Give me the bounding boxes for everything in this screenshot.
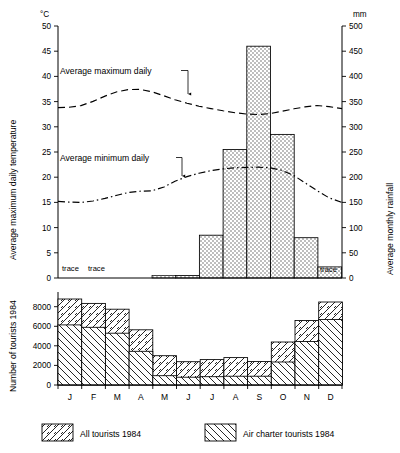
month-label-jan: J: [68, 392, 72, 402]
trace-label-left-1: trace: [62, 264, 79, 273]
trace-label-left-2: trace: [88, 264, 105, 273]
temp-tick-40: 40: [42, 72, 52, 81]
air-charter-bar-jul: [200, 377, 224, 385]
month-label-mar: M: [114, 392, 121, 402]
temp-tick-25: 25: [42, 148, 52, 157]
month-label-feb: F: [91, 392, 96, 402]
tourists-tick-4000: 4000: [33, 342, 52, 351]
rain-tick-500: 500: [349, 22, 363, 31]
bottom-axis-title: Number of tourists 1984: [8, 300, 18, 392]
air-charter-bar-feb: [82, 327, 106, 385]
rain-tick-150: 150: [349, 198, 363, 207]
month-label-may: M: [161, 392, 168, 402]
month-label-oct: O: [280, 392, 287, 402]
month-labels: J F M A M J J A S O N D: [68, 392, 334, 402]
avg-min-daily-curve: [58, 167, 342, 202]
rain-tick-50: 50: [349, 249, 359, 258]
rain-tick-250: 250: [349, 148, 363, 157]
rain-bar-jul: [199, 235, 223, 278]
rainfall-axis: 500 450 400 350 300 250 200 150 100 50 0…: [342, 22, 395, 283]
tourists-axis: 8000 6000 4000 2000 0 Number of tourists…: [8, 292, 58, 392]
annotation-avg-max-label: Average maximum daily: [60, 66, 152, 76]
air-charter-bar-apr: [129, 351, 153, 385]
left-unit-label: °C: [40, 10, 49, 19]
temp-tick-50: 50: [42, 22, 52, 31]
annotation-avg-min: Average minimum daily: [60, 153, 182, 176]
climate-tourism-figure: °C mm 50 45 40 35 30 25: [0, 0, 400, 453]
rain-tick-350: 350: [349, 98, 363, 107]
legend-label-all-tourists: All tourists 1984: [80, 429, 141, 439]
rain-bar-oct: [271, 134, 295, 278]
temp-tick-30: 30: [42, 123, 52, 132]
trace-label-right: trace: [320, 265, 337, 274]
rain-bar-nov: [294, 238, 318, 278]
month-label-apr: A: [138, 392, 144, 402]
temp-tick-35: 35: [42, 98, 52, 107]
left-axis-title: Average maximum daily temperature: [8, 120, 18, 260]
air-charter-bar-aug: [224, 376, 248, 385]
right-unit-label: mm: [353, 10, 367, 19]
air-charter-bar-jan: [58, 325, 82, 385]
air-charter-bar-nov: [295, 342, 319, 386]
rain-bar-aug: [223, 150, 247, 279]
rain-tick-400: 400: [349, 72, 363, 81]
month-ticks: [58, 385, 342, 389]
rain-tick-450: 450: [349, 47, 363, 56]
rain-bar-sep: [247, 46, 271, 278]
top-panel: °C mm 50 45 40 35 30 25: [8, 10, 395, 283]
rain-tick-100: 100: [349, 224, 363, 233]
air-charter-bar-oct: [271, 362, 295, 385]
air-charter-bar-jun: [177, 377, 201, 385]
air-charter-bar-dec: [319, 320, 343, 386]
air-charter-bar-sep: [248, 376, 272, 385]
temp-tick-20: 20: [42, 173, 52, 182]
legend: All tourists 1984 Air charter tourists 1…: [42, 424, 334, 441]
rainfall-bars: [152, 46, 342, 278]
rain-tick-200: 200: [349, 173, 363, 182]
legend-swatch-all-tourists: [42, 424, 73, 441]
month-label-jul: J: [210, 392, 214, 402]
tourists-tick-2000: 2000: [33, 361, 52, 370]
right-axis-title: Average monthly rainfall: [385, 183, 395, 275]
legend-label-air-charter: Air charter tourists 1984: [243, 429, 334, 439]
annotation-avg-min-label: Average minimum daily: [60, 153, 150, 163]
temp-tick-5: 5: [46, 249, 51, 258]
tourists-tick-6000: 6000: [33, 322, 52, 331]
air-charter-bar-may: [153, 376, 177, 385]
rain-tick-300: 300: [349, 123, 363, 132]
temp-tick-45: 45: [42, 47, 52, 56]
month-label-aug: A: [233, 392, 239, 402]
temp-tick-10: 10: [42, 224, 52, 233]
rain-tick-0: 0: [349, 274, 354, 283]
tourists-tick-8000: 8000: [33, 303, 52, 312]
month-label-nov: N: [304, 392, 310, 402]
legend-swatch-air-charter: [205, 424, 236, 441]
temperature-axis: 50 45 40 35 30 25 20 15 10 5 0 Average m…: [8, 22, 58, 283]
avg-max-daily-curve: [58, 89, 342, 114]
annotation-avg-max: Average maximum daily: [60, 66, 188, 94]
air-charter-bar-mar: [105, 333, 129, 385]
bottom-panel: 8000 6000 4000 2000 0 Number of tourists…: [8, 292, 342, 402]
temp-tick-0: 0: [46, 274, 51, 283]
month-label-sep: S: [257, 392, 263, 402]
tourists-tick-0: 0: [46, 381, 51, 390]
temp-tick-15: 15: [42, 198, 52, 207]
month-label-dec: D: [327, 392, 333, 402]
month-label-jun: J: [186, 392, 190, 402]
